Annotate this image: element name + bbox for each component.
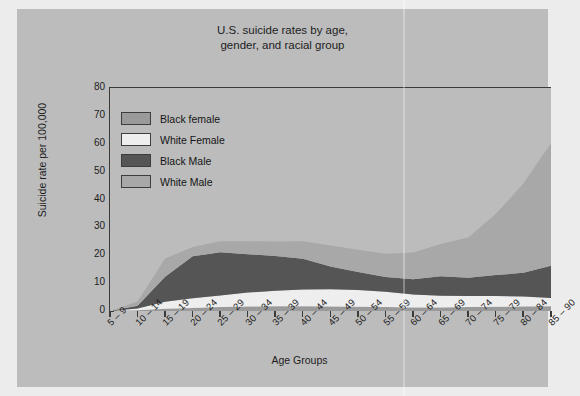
legend-item[interactable]: White Female [121, 129, 251, 150]
legend-swatch-icon [121, 133, 151, 146]
legend-item[interactable]: White Male [121, 171, 251, 192]
legend-item[interactable]: Black female [121, 108, 251, 129]
chart-legend: Black femaleWhite FemaleBlack MaleWhite … [121, 108, 251, 192]
y-tick-label: 20 [69, 249, 105, 259]
y-axis-title: Suicide rate per 100,000 [36, 65, 48, 255]
legend-label: Black female [160, 113, 220, 125]
legend-label: White Female [160, 134, 225, 146]
y-tick-label: 0 [69, 305, 105, 315]
legend-label: Black Male [160, 155, 211, 167]
y-tick-label: 10 [69, 277, 105, 287]
y-tick-label: 50 [69, 166, 105, 176]
legend-label: White Male [160, 176, 213, 188]
figure-panel: U.S. suicide rates by age, gender, and r… [17, 9, 548, 387]
y-axis-tick-labels: 80706050403020100 [69, 79, 105, 318]
legend-item[interactable]: Black Male [121, 150, 251, 171]
y-tick-label: 30 [69, 221, 105, 231]
legend-swatch-icon [121, 154, 151, 167]
x-axis-title: Age Groups [17, 354, 580, 366]
y-tick-label: 70 [69, 110, 105, 120]
y-tick-label: 80 [69, 82, 105, 92]
legend-swatch-icon [121, 112, 151, 125]
legend-swatch-icon [121, 175, 151, 188]
y-tick-label: 40 [69, 194, 105, 204]
y-tick-label: 60 [69, 138, 105, 148]
x-axis-tick-labels: 5 – 910 – 1415 – 1920 – 2425 – 2930 – 34… [17, 9, 580, 69]
